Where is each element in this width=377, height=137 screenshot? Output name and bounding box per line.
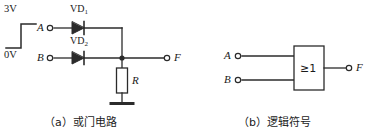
- diode-vd2-triangle: [72, 52, 84, 64]
- label-diode-vd1-subscript: 1: [84, 8, 88, 16]
- label-input-b: B: [37, 52, 44, 63]
- caption-panel-a: （a）或门电路: [44, 113, 117, 129]
- terminal-f-circle: [164, 55, 169, 60]
- logic-terminal-f-circle: [346, 65, 351, 70]
- logic-terminal-a-circle: [235, 53, 240, 58]
- label-logic-input-b: B: [224, 74, 231, 85]
- terminal-a-circle: [47, 25, 52, 30]
- label-input-a: A: [37, 22, 44, 33]
- label-resistor-r: R: [132, 75, 139, 86]
- or-gate-symbol-text: ≥1: [300, 62, 316, 75]
- figure-or-gate: 3V 0V A B F VD1 VD2 R （a）或门电路: [0, 0, 377, 137]
- label-output-f: F: [174, 52, 181, 63]
- label-low-voltage: 0V: [4, 50, 17, 61]
- label-diode-vd2-text: VD: [70, 35, 84, 46]
- label-diode-vd1: VD1: [70, 4, 88, 14]
- resistor-body: [117, 68, 128, 93]
- panel-logic-symbol: A B F ≥1 （b）逻辑符号: [190, 0, 377, 137]
- terminal-b-circle: [47, 55, 52, 60]
- label-logic-input-a: A: [224, 50, 231, 61]
- label-diode-vd1-text: VD: [70, 3, 84, 14]
- label-diode-vd2-subscript: 2: [84, 40, 88, 48]
- label-logic-output-f: F: [356, 62, 363, 73]
- panel-or-gate-circuit: 3V 0V A B F VD1 VD2 R （a）或门电路: [0, 0, 190, 137]
- step-waveform-icon: [6, 24, 36, 48]
- label-high-voltage: 3V: [4, 4, 17, 15]
- diode-vd1-triangle: [72, 22, 84, 34]
- logic-terminal-b-circle: [235, 77, 240, 82]
- label-diode-vd2: VD2: [70, 36, 88, 46]
- caption-panel-b: （b）逻辑符号: [238, 113, 311, 129]
